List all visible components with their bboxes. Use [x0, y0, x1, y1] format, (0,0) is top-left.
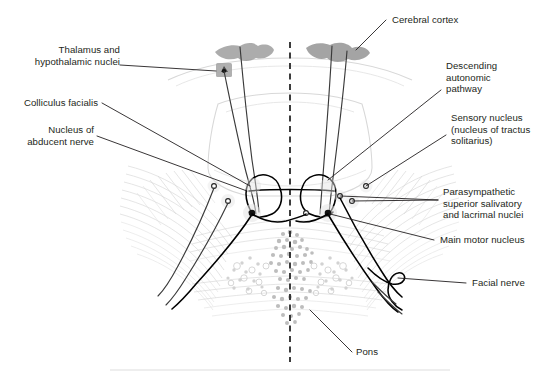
label-thalamus-hypothalamic-nuclei: Thalamus and hypothalamic nuclei [8, 44, 120, 67]
label-descending-autonomic-pathway: Descending autonomic pathway [446, 60, 546, 95]
label-cerebral-cortex: Cerebral cortex [392, 14, 502, 26]
label-sensory-nucleus: Sensory nucleus (nucleus of tractus soli… [451, 112, 555, 147]
label-colliculus-facialis: Colliculus facialis [8, 97, 98, 109]
label-pons: Pons [356, 346, 396, 358]
label-nucleus-abducent-nerve: Nucleus of abducent nerve [8, 124, 94, 147]
label-facial-nerve: Facial nerve [472, 277, 552, 289]
thalamic-nucleus-marker [216, 63, 232, 77]
label-parasympathetic-nuclei: Parasympathetic superior salivatory and … [443, 186, 555, 221]
label-main-motor-nucleus: Main motor nucleus [440, 234, 552, 246]
